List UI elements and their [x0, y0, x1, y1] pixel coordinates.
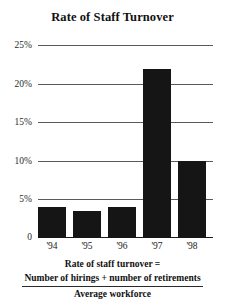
bar-96 [108, 207, 136, 238]
ytick-label-15: 15% [0, 117, 32, 127]
bar-series [38, 45, 213, 238]
x-axis-labels: '94 '95 '96 '97 '98 [38, 241, 213, 257]
xtick-label-96: '96 [108, 241, 136, 251]
ytick-label-20: 20% [0, 79, 32, 89]
xtick-label-94: '94 [38, 241, 66, 251]
xtick-label-95: '95 [73, 241, 101, 251]
bar-94 [38, 207, 66, 238]
formula-fraction: Number of hirings + number of retirement… [22, 272, 202, 301]
ytick-label-10: 10% [0, 156, 32, 166]
xtick-label-97: '97 [143, 241, 171, 251]
formula-numerator: Number of hirings + number of retirement… [22, 272, 202, 287]
xtick-label-98: '98 [178, 241, 206, 251]
chart-figure: Rate of Staff Turnover 25% 20% 15% 10% 5… [0, 0, 225, 305]
chart-caption: Rate of staff turnover = Number of hirin… [0, 258, 225, 301]
ytick-label-5: 5% [0, 194, 32, 204]
formula-lead: Rate of staff turnover = [0, 258, 225, 271]
bar-95 [73, 211, 101, 238]
ytick-label-25: 25% [0, 40, 32, 50]
formula-denominator: Average workforce [22, 287, 202, 301]
bar-98 [178, 161, 206, 238]
chart-title: Rate of Staff Turnover [0, 10, 225, 25]
ytick-label-0: 0 [0, 232, 32, 242]
plot-area: 25% 20% 15% 10% 5% 0 [38, 45, 213, 238]
bar-97 [143, 69, 171, 238]
